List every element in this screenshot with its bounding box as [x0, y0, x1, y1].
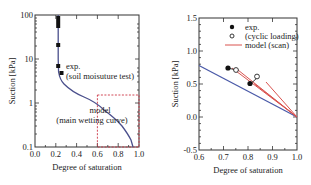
left-xtick-1.0: 1.0 — [134, 149, 145, 159]
left-exp-points — [56, 16, 63, 75]
left-xtick-0.8: 0.8 — [113, 149, 124, 159]
figure: 100 10 1 0.1 0.0 0.2 0.4 0.6 0.8 1.0 Deg… — [0, 0, 311, 185]
left-ann-exp-desc: (soil moisuture test) — [66, 71, 134, 81]
right-chart: 1.5 1.0 0.5 0.0 -0.5 0.6 0.7 0.8 0.9 1.0… — [170, 13, 302, 175]
right-exp-filled — [225, 65, 252, 86]
right-scan-lines — [232, 68, 297, 117]
right-main-wetting-line — [199, 66, 297, 118]
left-xtick-0.4: 0.4 — [71, 149, 82, 159]
legend-filled-circle-icon — [230, 25, 234, 29]
right-ytick-1.0: 1.0 — [186, 46, 197, 56]
left-chart: 100 10 1 0.1 0.0 0.2 0.4 0.6 0.8 1.0 Deg… — [7, 10, 144, 172]
right-xtick-0.7: 0.7 — [218, 152, 229, 162]
left-ytick-1: 1 — [29, 98, 33, 108]
right-ylabel: Suction [kPa] — [170, 61, 180, 108]
right-ytick-0.5: 0.5 — [186, 79, 197, 89]
left-ann-exp: exp. — [66, 61, 80, 71]
right-ytick-0.0: 0.0 — [186, 112, 197, 122]
left-xtick-0.0: 0.0 — [30, 149, 41, 159]
left-ylabel: Suction [kPa] — [7, 58, 17, 105]
legend-model-label: model (scan) — [245, 40, 289, 50]
left-main-wetting-curve — [58, 15, 133, 147]
right-xtick-0.8: 0.8 — [243, 152, 254, 162]
right-xtick-0.9: 0.9 — [267, 152, 278, 162]
right-legend: exp. (cyclic loading) model (scan) — [225, 22, 299, 50]
left-ann-model: model — [89, 105, 111, 115]
left-ann-model-desc: (main wetting curve) — [56, 115, 127, 125]
left-ytick-10: 10 — [25, 54, 34, 64]
right-ytick-1.5: 1.5 — [186, 13, 197, 23]
legend-open-circle-icon — [230, 34, 234, 38]
right-xtick-1.0: 1.0 — [292, 152, 303, 162]
left-xtick-0.2: 0.2 — [50, 149, 61, 159]
right-xlabel: Degree of saturation — [213, 165, 283, 175]
left-ytick-100: 100 — [20, 10, 33, 20]
right-xtick-0.6: 0.6 — [194, 152, 205, 162]
left-xtick-0.6: 0.6 — [92, 149, 103, 159]
left-xlabel: Degree of saturation — [52, 162, 122, 172]
